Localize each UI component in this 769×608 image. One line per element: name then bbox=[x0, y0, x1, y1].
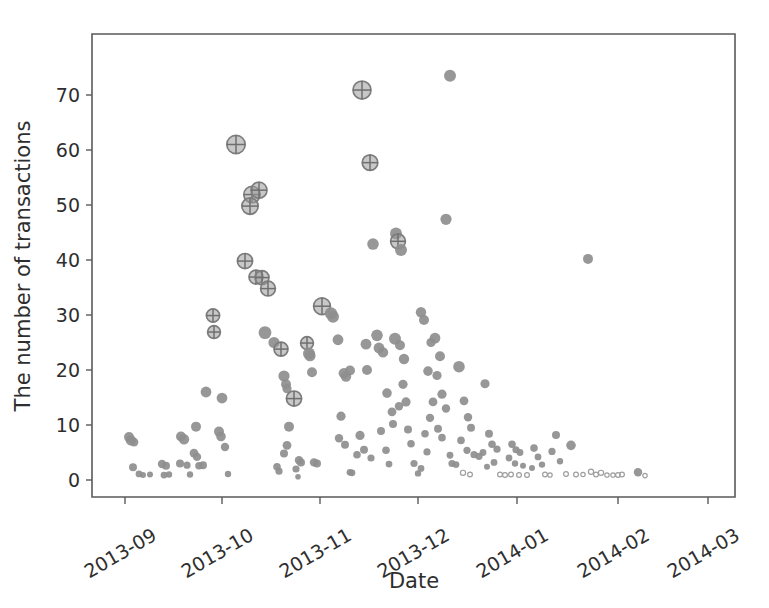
marker-disc bbox=[548, 448, 555, 455]
scatter-point bbox=[467, 424, 475, 432]
marker-disc bbox=[498, 472, 503, 477]
scatter-point bbox=[388, 407, 397, 416]
y-axis-title: The number of transactions bbox=[11, 121, 35, 413]
scatter-point bbox=[284, 422, 294, 432]
scatter-point bbox=[333, 334, 344, 345]
marker-disc bbox=[191, 422, 201, 432]
marker-disc bbox=[407, 440, 415, 448]
x-tick-label: 2014-01 bbox=[472, 523, 552, 582]
scatter-point bbox=[336, 412, 345, 421]
marker-disc bbox=[307, 367, 317, 377]
marker-disc bbox=[485, 430, 493, 438]
plot-border bbox=[92, 34, 735, 497]
scatter-point bbox=[353, 81, 371, 99]
marker-disc bbox=[605, 473, 609, 477]
scatter-point bbox=[130, 438, 139, 447]
marker-disc bbox=[442, 404, 450, 412]
marker-disc bbox=[594, 472, 599, 477]
scatter-point bbox=[581, 472, 585, 476]
marker-disc bbox=[341, 441, 349, 449]
scatter-point bbox=[176, 460, 184, 468]
scatter-point bbox=[187, 471, 193, 477]
marker-disc bbox=[581, 472, 585, 476]
scatter-point bbox=[208, 326, 221, 339]
scatter-point bbox=[349, 469, 356, 476]
scatter-point bbox=[199, 461, 207, 469]
marker-disc bbox=[201, 387, 212, 398]
marker-disc bbox=[217, 393, 228, 404]
marker-disc bbox=[225, 471, 231, 477]
marker-disc bbox=[361, 339, 372, 350]
scatter-point bbox=[355, 431, 364, 440]
scatter-point bbox=[407, 440, 415, 448]
scatter-point bbox=[453, 361, 465, 373]
marker-disc bbox=[453, 361, 465, 373]
y-axis-ticks: 010203040506070 bbox=[56, 84, 92, 491]
marker-disc bbox=[457, 437, 465, 445]
scatter-point bbox=[421, 430, 429, 438]
scatter-point bbox=[503, 473, 508, 478]
marker-disc bbox=[434, 425, 442, 433]
y-tick-label: 30 bbox=[56, 304, 80, 326]
scatter-point bbox=[242, 198, 258, 214]
marker-disc bbox=[418, 465, 425, 472]
marker-disc bbox=[539, 461, 545, 467]
scatter-point bbox=[512, 460, 518, 466]
scatter-point bbox=[634, 468, 642, 476]
marker-disc bbox=[509, 472, 514, 477]
marker-disc bbox=[162, 462, 170, 470]
marker-disc bbox=[327, 311, 339, 323]
scatter-point bbox=[463, 447, 470, 454]
marker-disc bbox=[435, 351, 445, 361]
scatter-point bbox=[594, 472, 599, 477]
scatter-point bbox=[398, 380, 407, 389]
scatter-point bbox=[304, 350, 315, 361]
marker-disc bbox=[333, 334, 344, 345]
marker-disc bbox=[426, 338, 435, 347]
scatter-point bbox=[386, 461, 393, 468]
scatter-points-layer bbox=[124, 70, 647, 480]
scatter-point bbox=[371, 330, 383, 342]
marker-disc bbox=[611, 473, 615, 477]
marker-disc bbox=[432, 371, 441, 380]
scatter-point bbox=[166, 471, 172, 477]
scatter-point bbox=[429, 398, 438, 407]
scatter-point bbox=[206, 309, 219, 322]
marker-disc bbox=[382, 388, 392, 398]
marker-disc bbox=[484, 464, 490, 470]
x-tick-label: 2013-11 bbox=[275, 523, 355, 582]
scatter-point bbox=[460, 396, 469, 405]
marker-disc bbox=[535, 454, 542, 461]
marker-disc bbox=[335, 434, 343, 442]
scatter-point bbox=[345, 366, 355, 376]
marker-disc bbox=[517, 473, 522, 478]
marker-disc bbox=[620, 472, 625, 477]
scatter-point bbox=[517, 449, 524, 456]
marker-disc bbox=[566, 441, 576, 451]
y-tick-label: 0 bbox=[68, 469, 80, 491]
marker-disc bbox=[583, 254, 593, 264]
scatter-point bbox=[382, 388, 392, 398]
marker-disc bbox=[378, 347, 388, 357]
marker-disc bbox=[588, 469, 593, 474]
scatter-point bbox=[566, 441, 576, 451]
scatter-point bbox=[225, 471, 231, 477]
marker-disc bbox=[313, 460, 321, 468]
marker-disc bbox=[512, 460, 518, 466]
scatter-point bbox=[435, 351, 445, 361]
marker-disc bbox=[548, 473, 552, 477]
scatter-point bbox=[147, 472, 153, 478]
marker-disc bbox=[447, 452, 454, 459]
scatter-point bbox=[525, 473, 530, 478]
scatter-point bbox=[506, 455, 513, 462]
marker-disc bbox=[440, 214, 451, 225]
scatter-point bbox=[468, 472, 473, 477]
scatter-point bbox=[426, 414, 434, 422]
marker-disc bbox=[367, 238, 379, 250]
scatter-point bbox=[426, 338, 435, 347]
scatter-point bbox=[361, 339, 372, 350]
scatter-point bbox=[183, 462, 190, 469]
scatter-point bbox=[335, 434, 343, 442]
marker-disc bbox=[419, 315, 429, 325]
marker-disc bbox=[304, 350, 315, 361]
